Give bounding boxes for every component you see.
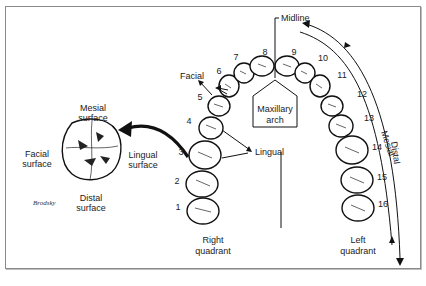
- svg-text:Mesial: Mesial: [80, 103, 106, 113]
- tooth-number-8: 8: [262, 47, 267, 57]
- svg-text:surface: surface: [22, 159, 52, 169]
- tooth-number-13: 13: [364, 113, 374, 123]
- svg-text:surface: surface: [76, 203, 106, 213]
- left-quadrant-line1: Left: [350, 235, 366, 245]
- tooth-number-5: 5: [197, 92, 202, 102]
- tooth-number-4: 4: [186, 116, 191, 126]
- left-quadrant-line2: quadrant: [340, 246, 376, 256]
- tooth-number-6: 6: [216, 66, 221, 76]
- tooth-arch: [186, 56, 374, 224]
- dental-arch-diagram: Midline Maxillary arch Facial Lingual Ri…: [0, 0, 426, 286]
- facial-label: Facial: [180, 71, 204, 81]
- arch-label-line2: arch: [266, 115, 284, 125]
- midline-label: Midline: [281, 13, 310, 23]
- svg-text:Facial: Facial: [25, 149, 49, 159]
- svg-text:Distal: Distal: [80, 193, 103, 203]
- svg-text:Lingual: Lingual: [128, 150, 157, 160]
- tooth-number-11: 11: [337, 70, 346, 80]
- tooth-number-15: 15: [377, 172, 387, 182]
- right-quadrant-line2: quadrant: [195, 246, 231, 256]
- tooth-number-12: 12: [357, 89, 367, 99]
- tooth-number-16: 16: [378, 199, 388, 209]
- arch-label-line1: Maxillary: [257, 104, 293, 114]
- enlarged-molar: [62, 119, 121, 180]
- tooth-number-14: 14: [372, 142, 382, 152]
- tooth-number-7: 7: [233, 52, 238, 62]
- svg-text:surface: surface: [128, 160, 158, 170]
- right-quadrant-line1: Right: [202, 235, 224, 245]
- tooth-number-9: 9: [291, 47, 296, 57]
- tooth-number-10: 10: [318, 53, 328, 63]
- tooth-number-1: 1: [175, 202, 180, 212]
- tooth-number-3: 3: [178, 147, 183, 157]
- tooth-number-2: 2: [174, 176, 179, 186]
- svg-text:surface: surface: [78, 113, 108, 123]
- artist-signature: Brodsky: [33, 199, 57, 207]
- lingual-label: Lingual: [255, 147, 284, 157]
